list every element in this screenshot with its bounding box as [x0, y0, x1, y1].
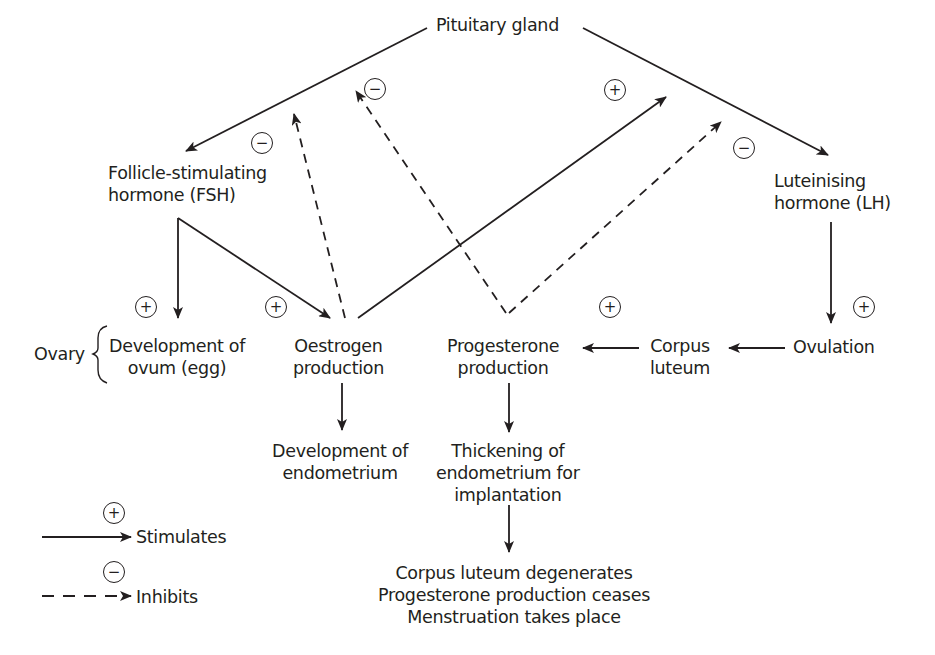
- ovary-label: Ovary: [34, 343, 85, 365]
- node-fsh: Follicle-stimulating hormone (FSH): [108, 162, 267, 206]
- plus-sign-icon: +: [853, 296, 875, 318]
- thickening-line-1: Thickening of: [436, 440, 580, 462]
- oestrogen-line-1: Oestrogen: [293, 335, 384, 357]
- node-endometrium-development: Development of endometrium: [272, 440, 408, 484]
- minus-sign-icon: −: [733, 137, 755, 159]
- legend-minus-sign-icon: −: [103, 561, 125, 583]
- node-ovum: Development of ovum (egg): [109, 335, 245, 379]
- ovum-line-1: Development of: [109, 335, 245, 357]
- outcome-line-2: Progesterone production ceases: [378, 584, 650, 606]
- thickening-line-2: endometrium for: [436, 462, 580, 484]
- node-oestrogen: Oestrogen production: [293, 335, 384, 379]
- outcome-line-3: Menstruation takes place: [378, 606, 650, 628]
- thickening-line-3: implantation: [436, 484, 580, 506]
- oestrogen-line-2: production: [293, 357, 384, 379]
- ovum-line-2: ovum (egg): [109, 357, 245, 379]
- lh-line-1: Luteinising: [774, 170, 891, 192]
- dashed-progesterone-to-pituitary-fsh: [356, 91, 506, 313]
- minus-sign-icon: −: [364, 78, 386, 100]
- minus-sign-icon: −: [251, 132, 273, 154]
- node-outcome: Corpus luteum degenerates Progesterone p…: [378, 562, 650, 628]
- progesterone-line-2: production: [447, 357, 559, 379]
- plus-sign-icon: +: [265, 296, 287, 318]
- node-corpus-luteum: Corpus luteum: [650, 335, 710, 379]
- node-ovulation: Ovulation: [793, 336, 875, 358]
- node-lh: Luteinising hormone (LH): [774, 170, 891, 214]
- endometrium-dev-line-1: Development of: [272, 440, 408, 462]
- arrow-pituitary-to-fsh: [186, 28, 427, 151]
- ovulation-label: Ovulation: [793, 336, 875, 358]
- plus-sign-icon: +: [604, 79, 626, 101]
- progesterone-line-1: Progesterone: [447, 335, 559, 357]
- pituitary-label: Pituitary gland: [436, 14, 559, 36]
- node-thickening: Thickening of endometrium for implantati…: [436, 440, 580, 506]
- corpus-line-1: Corpus: [650, 335, 710, 357]
- corpus-line-2: luteum: [650, 357, 710, 379]
- dashed-progesterone-to-pituitary-lh: [509, 122, 721, 313]
- diagram-arrows: [0, 0, 935, 655]
- arrow-fsh-to-oestrogen: [178, 218, 330, 318]
- plus-sign-icon: +: [599, 296, 621, 318]
- plus-sign-icon: +: [135, 296, 157, 318]
- outcome-line-1: Corpus luteum degenerates: [378, 562, 650, 584]
- node-progesterone: Progesterone production: [447, 335, 559, 379]
- fsh-line-1: Follicle-stimulating: [108, 162, 267, 184]
- node-pituitary-gland: Pituitary gland: [436, 14, 559, 36]
- arrow-oestrogen-to-pituitary-lh: [358, 97, 666, 318]
- ovary-brace: [93, 326, 107, 383]
- legend-plus-sign-icon: +: [103, 502, 125, 524]
- lh-line-2: hormone (LH): [774, 192, 891, 214]
- endometrium-dev-line-2: endometrium: [272, 462, 408, 484]
- legend-inhibits-label: Inhibits: [136, 586, 198, 608]
- node-ovary: Ovary: [34, 343, 85, 365]
- dashed-oestrogen-to-pituitary: [294, 114, 345, 318]
- legend-stimulates-label: Stimulates: [136, 526, 226, 548]
- fsh-line-2: hormone (FSH): [108, 184, 267, 206]
